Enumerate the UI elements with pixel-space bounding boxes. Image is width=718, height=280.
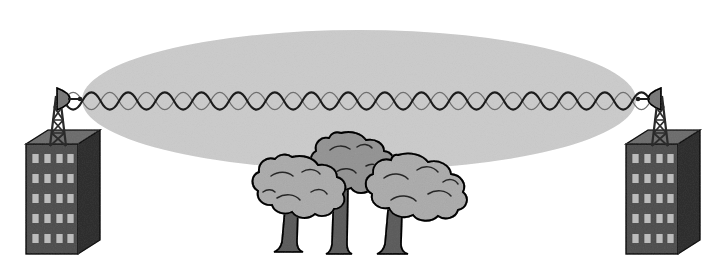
tree-right-front (366, 153, 467, 254)
building-left-side (78, 130, 100, 254)
building-right (626, 130, 700, 254)
building-left (26, 130, 100, 254)
dish-antenna-right-icon (636, 88, 661, 110)
diagram-canvas (0, 0, 718, 280)
building-right-side (678, 130, 700, 254)
wireless-link-illustration (0, 0, 718, 280)
